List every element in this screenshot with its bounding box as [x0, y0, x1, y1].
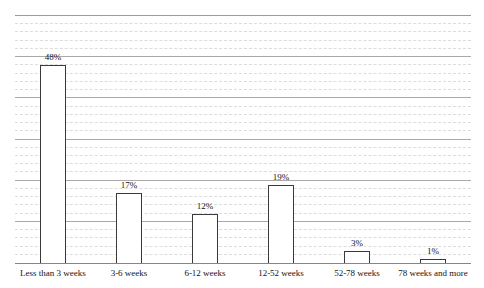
minor-gridline — [15, 73, 471, 74]
major-gridline — [15, 180, 471, 181]
minor-gridline — [15, 81, 471, 82]
minor-gridline — [15, 64, 471, 65]
bar — [192, 214, 218, 263]
major-gridline — [15, 139, 471, 140]
minor-gridline — [15, 204, 471, 205]
bar — [40, 65, 66, 263]
minor-gridline — [15, 213, 471, 214]
minor-gridline — [15, 122, 471, 123]
x-axis-label: 12-52 weeks — [258, 269, 304, 278]
x-axis-label: 6-12 weeks — [184, 269, 225, 278]
minor-gridline — [15, 196, 471, 197]
x-axis-labels: Less than 3 weeks3-6 weeks6-12 weeks12-5… — [15, 269, 471, 283]
minor-gridline — [15, 114, 471, 115]
minor-gridline — [15, 246, 471, 247]
x-axis-label: 3-6 weeks — [111, 269, 148, 278]
plot-area: 48%17%12%19%3%1% — [15, 15, 471, 264]
major-gridline — [15, 97, 471, 98]
minor-gridline — [15, 130, 471, 131]
minor-gridline — [15, 23, 471, 24]
minor-gridline — [15, 188, 471, 189]
bar-value-label: 17% — [121, 181, 138, 190]
bar — [116, 193, 142, 263]
bar — [268, 185, 294, 263]
major-gridline — [15, 56, 471, 57]
bar — [344, 251, 370, 263]
minor-gridline — [15, 237, 471, 238]
major-gridline — [15, 221, 471, 222]
minor-gridline — [15, 106, 471, 107]
minor-gridline — [15, 147, 471, 148]
bar-value-label: 1% — [427, 247, 439, 256]
minor-gridline — [15, 89, 471, 90]
minor-gridline — [15, 48, 471, 49]
bar-value-label: 3% — [351, 239, 363, 248]
bar — [420, 259, 446, 263]
x-axis-label: 52-78 weeks — [334, 269, 380, 278]
minor-gridline — [15, 31, 471, 32]
x-axis-label: Less than 3 weeks — [20, 269, 86, 278]
minor-gridline — [15, 171, 471, 172]
bar-value-label: 19% — [273, 173, 290, 182]
minor-gridline — [15, 254, 471, 255]
minor-gridline — [15, 163, 471, 164]
minor-gridline — [15, 155, 471, 156]
minor-gridline — [15, 229, 471, 230]
bar-value-label: 48% — [45, 53, 62, 62]
bar-chart: 48%17%12%19%3%1% Less than 3 weeks3-6 we… — [0, 0, 484, 288]
x-axis-label: 78 weeks and more — [398, 269, 468, 278]
minor-gridline — [15, 40, 471, 41]
bar-value-label: 12% — [197, 202, 214, 211]
